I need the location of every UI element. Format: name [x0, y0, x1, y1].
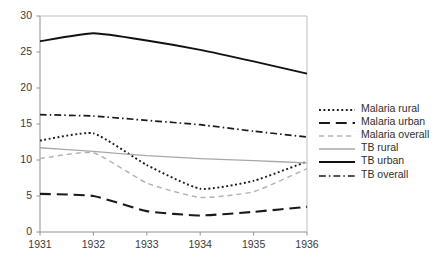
- series-line-malaria-overall: [40, 152, 307, 197]
- y-tick-label: 10: [6, 153, 32, 165]
- legend-item-malaria-urban[interactable]: Malaria urban: [318, 114, 438, 127]
- series-line-tb-rural: [40, 148, 307, 163]
- legend-swatch-icon: [318, 115, 356, 127]
- y-tick-label: 0: [6, 225, 32, 237]
- x-tick-marks: [40, 232, 307, 236]
- legend-swatch-icon: [318, 102, 356, 114]
- legend-swatch-icon: [318, 128, 356, 140]
- legend-swatch-icon: [318, 168, 356, 180]
- y-tick-marks: [37, 16, 41, 232]
- legend-label: TB overall: [361, 168, 408, 180]
- chart-legend: Malaria ruralMalaria urbanMalaria overal…: [318, 101, 438, 180]
- legend-swatch-icon: [318, 141, 356, 153]
- legend-label: Malaria rural: [361, 102, 419, 114]
- legend-label: TB rural: [361, 141, 398, 153]
- chart-figure: 051015202530 193119321933193419351936 Ma…: [0, 0, 440, 267]
- chart-axes: [37, 16, 308, 236]
- x-tick-label: 1933: [124, 238, 170, 250]
- y-tick-label: 5: [6, 189, 32, 201]
- y-tick-label: 20: [6, 81, 32, 93]
- legend-item-tb-urban[interactable]: TB urban: [318, 154, 438, 167]
- legend-label: TB urban: [361, 154, 404, 166]
- series-line-malaria-urban: [40, 194, 307, 216]
- y-tick-label: 15: [6, 117, 32, 129]
- x-tick-label: 1932: [70, 238, 116, 250]
- series-line-tb-urban: [40, 33, 307, 73]
- legend-label: Malaria urban: [361, 115, 425, 127]
- x-tick-label: 1935: [231, 238, 277, 250]
- x-tick-label: 1934: [177, 238, 223, 250]
- legend-item-malaria-rural[interactable]: Malaria rural: [318, 101, 438, 114]
- legend-label: Malaria overall: [361, 128, 429, 140]
- chart-series-layer: [40, 33, 307, 215]
- y-tick-label: 25: [6, 45, 32, 57]
- y-tick-label: 30: [6, 9, 32, 21]
- legend-item-tb-rural[interactable]: TB rural: [318, 141, 438, 154]
- legend-item-tb-overall[interactable]: TB overall: [318, 167, 438, 180]
- legend-item-malaria-overall[interactable]: Malaria overall: [318, 127, 438, 140]
- legend-swatch-icon: [318, 154, 356, 166]
- x-tick-label: 1936: [284, 238, 330, 250]
- x-tick-label: 1931: [17, 238, 63, 250]
